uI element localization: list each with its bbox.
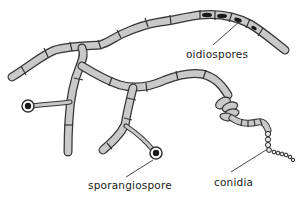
conidia-label: conidia — [214, 176, 253, 188]
sporangiospore-label: sporangiospore — [88, 179, 172, 191]
right-sporangiospore-icon — [150, 147, 162, 159]
conidia-leader-line — [231, 150, 266, 172]
hyphae-illustration — [0, 0, 299, 202]
conidia-chain-icon — [265, 131, 294, 161]
right-sporangiophore-stalk — [126, 126, 153, 150]
oidiospores-leader-line — [213, 22, 239, 45]
fungal-spore-diagram: oidiospores sporangiospore conidia — [0, 0, 299, 202]
sporangiospore-leader-line — [126, 160, 153, 177]
left-sporangiospore-icon — [22, 100, 34, 112]
oidiospores-label: oidiospores — [186, 48, 248, 60]
coiled-conidiophore — [214, 95, 268, 130]
top-hypha — [12, 14, 285, 77]
left-sporangiophore-stalk — [32, 102, 70, 106]
